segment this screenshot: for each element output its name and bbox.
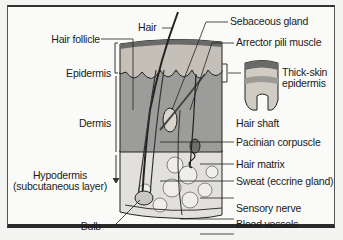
thick-skin-inset [245, 61, 278, 111]
label-hair-shaft: Hair shaft [236, 118, 279, 129]
label-arrector-pili-muscle: Arrector pili muscle [236, 37, 321, 48]
hair-bulb [135, 191, 153, 205]
label-epidermis: Epidermis [10, 68, 111, 79]
label-thick-skin-epidermis: epidermis [282, 78, 326, 89]
label-sensory-nerve: Sensory nerve [236, 203, 301, 214]
label-bulb: Bulb [10, 221, 101, 232]
label-blood-vessels: Blood vessels [236, 219, 298, 230]
label-hair: Hair [138, 22, 156, 33]
label-sweat-gland: Sweat (eccrine gland) [236, 176, 333, 187]
label-hair-follicle: Hair follicle [10, 34, 100, 45]
label-dermis: Dermis [10, 118, 111, 129]
label-sebaceous-gland: Sebaceous gland [230, 16, 308, 27]
label-pacinian-corpuscle: Pacinian corpuscle [236, 137, 321, 148]
label-hair-matrix: Hair matrix [236, 159, 285, 170]
label-hypodermis-sub: (subcutaneous layer) [6, 181, 114, 192]
